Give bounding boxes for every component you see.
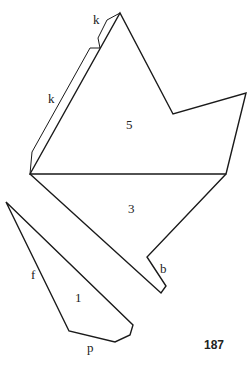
label-p: p xyxy=(87,340,94,355)
page-number: 187 xyxy=(204,338,224,352)
piece-5-outline xyxy=(30,13,246,174)
pattern-diagram: k k 5 3 b f 1 p 187 xyxy=(0,0,249,365)
label-b: b xyxy=(160,261,167,276)
label-k-upper: k xyxy=(93,12,100,27)
label-piece-1: 1 xyxy=(75,290,82,305)
label-piece-3: 3 xyxy=(128,201,135,216)
piece-3-outline xyxy=(30,174,226,293)
label-piece-5: 5 xyxy=(126,117,133,132)
label-k-lower: k xyxy=(48,91,55,106)
piece-1-outline xyxy=(6,202,133,342)
label-f: f xyxy=(31,267,36,282)
